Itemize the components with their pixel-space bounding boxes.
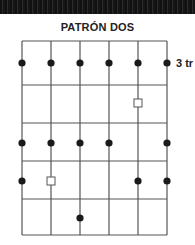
filled-dot-marker [163,59,170,66]
filled-dot-marker [163,139,170,146]
row-label: 3 tr [176,57,193,69]
filled-dot-marker [105,59,112,66]
filled-dot-marker [47,139,54,146]
filled-dot-marker [76,59,83,66]
filled-dot-marker [76,139,83,146]
open-square-marker [134,99,142,107]
filled-dot-marker [134,59,141,66]
filled-dot-marker [76,214,83,221]
filled-dot-marker [163,177,170,184]
filled-dot-marker [18,139,25,146]
filled-dot-marker [105,139,112,146]
filled-dot-marker [47,59,54,66]
filled-dot-marker [134,177,141,184]
pattern-grid-diagram [0,0,195,245]
open-square-marker [47,177,55,185]
filled-dot-marker [18,177,25,184]
filled-dot-marker [18,59,25,66]
